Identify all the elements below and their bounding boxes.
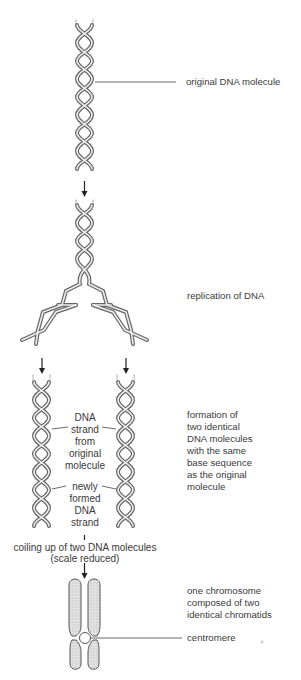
label-formation: formation of two identical DNA molecules…	[187, 409, 253, 493]
arrow-down-icon	[123, 358, 129, 374]
arrow-down-icon	[82, 563, 88, 579]
label-original-dna: original DNA molecule	[186, 76, 280, 88]
chromosome	[69, 579, 100, 669]
right-daughter-helix	[117, 375, 134, 526]
replicating-dna-helix	[22, 200, 147, 344]
label-centromere: centromere	[187, 632, 236, 644]
label-scale-reduced: (scale reduced)	[0, 553, 170, 565]
label-replication: replication of DNA	[187, 290, 264, 302]
label-newly-formed: newly formed DNA strand	[57, 481, 113, 529]
arrow-down-icon	[82, 181, 88, 197]
left-daughter-helix	[33, 375, 50, 526]
label-strand-from-original: DNA strand from original molecule	[57, 412, 113, 472]
arrow-down-icon	[39, 358, 45, 374]
centromere-circle	[80, 633, 91, 644]
original-dna-helix	[76, 20, 93, 169]
label-chromosome: one chromosome composed of two identical…	[187, 585, 272, 621]
dna-replication-diagram	[0, 0, 301, 680]
